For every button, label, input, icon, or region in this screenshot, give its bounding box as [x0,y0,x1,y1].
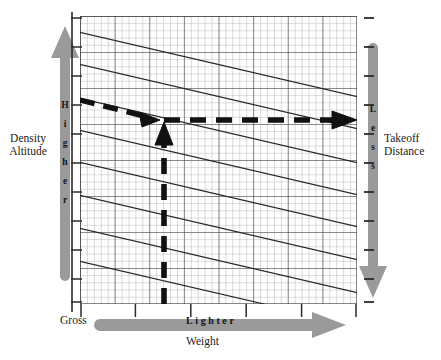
higher-letter-0: H [61,101,68,111]
plot-area [80,16,357,304]
right-axis-ticks [362,16,376,304]
left-axis-title: Density Altitude [4,132,52,158]
bottom-axis-title: Weight [186,335,219,348]
higher-letter-5: r [63,196,67,206]
higher-letter-1: i [64,120,67,130]
left-axis-spine [70,12,74,312]
higher-letter-3: h [62,158,67,168]
performance-chart-figure: H i g h e r L e s s Lighter Density Alti… [0,0,441,360]
right-axis-title: Takeoff Distance [384,132,441,158]
higher-letter-2: g [63,139,68,149]
bottom-axis-ticks [80,304,360,318]
plot-svg [80,16,357,304]
higher-letter-4: e [63,177,67,187]
